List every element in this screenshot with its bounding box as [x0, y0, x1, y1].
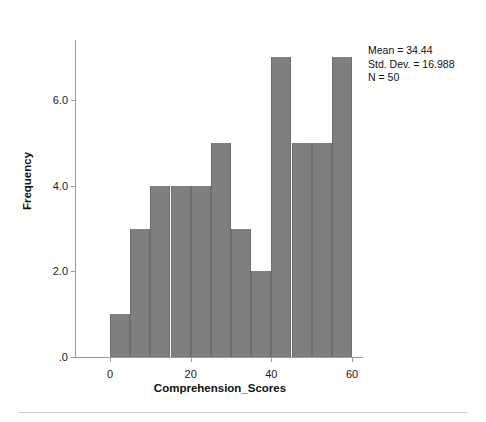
y-axis-tick-mark [71, 186, 76, 187]
histogram-chart: .02.04.06.0 0204060 Frequency Comprehens… [0, 0, 486, 422]
histogram-bars [110, 40, 352, 357]
y-axis-tick-mark [71, 100, 76, 101]
histogram-bar [191, 186, 211, 357]
x-axis-tick-label: 20 [185, 368, 197, 380]
x-axis-tick-label: 40 [265, 368, 277, 380]
y-axis-tick-mark [71, 271, 76, 272]
histogram-bar [292, 143, 312, 357]
histogram-bar [150, 186, 170, 357]
x-axis-tick-label: 0 [107, 368, 113, 380]
histogram-bar [231, 229, 251, 358]
y-axis-tick-label: 6.0 [20, 94, 68, 106]
sample-size-text: N = 50 [368, 71, 455, 85]
histogram-bar [171, 186, 191, 357]
footer-divider [18, 412, 468, 413]
y-axis-tick-mark [71, 357, 76, 358]
mean-text: Mean = 34.44 [368, 44, 455, 58]
histogram-bar [271, 57, 291, 357]
statistics-annotation: Mean = 34.44 Std. Dev. = 16.988 N = 50 [368, 44, 455, 85]
x-axis-line [75, 357, 363, 358]
histogram-bar [211, 143, 231, 357]
x-axis-tick-label: 60 [346, 368, 358, 380]
histogram-bar [312, 143, 332, 357]
y-axis-title: Frequency [21, 131, 33, 231]
histogram-bar [130, 229, 150, 358]
y-axis-line [75, 40, 76, 358]
histogram-bar [332, 57, 352, 357]
histogram-bar [110, 314, 130, 357]
y-axis-tick-label: 2.0 [20, 265, 68, 277]
std-dev-text: Std. Dev. = 16.988 [368, 58, 455, 72]
histogram-bar [251, 271, 271, 357]
x-axis-tick-labels: 0204060 [0, 360, 486, 380]
x-axis-title: Comprehension_Scores [75, 382, 365, 394]
